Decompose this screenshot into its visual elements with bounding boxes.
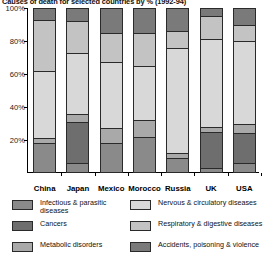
bar-segment[interactable] (166, 31, 189, 48)
bar-segment[interactable] (100, 33, 123, 63)
bar-segment[interactable] (233, 41, 256, 124)
x-tick-mark (128, 173, 129, 176)
bar-segment[interactable] (33, 71, 56, 139)
legend-label: Accidents, poisoning & violence (158, 241, 259, 249)
x-tick-label-uk: UK (205, 184, 216, 193)
stacked-bars (27, 8, 260, 173)
bar-segment[interactable] (200, 8, 223, 16)
bar-segment[interactable] (133, 33, 156, 66)
x-tick-label-japan: Japan (67, 184, 90, 193)
bar-segment[interactable] (133, 8, 156, 33)
x-tick-label-russia: Russia (165, 184, 191, 193)
bar-segment[interactable] (166, 48, 189, 154)
legend-swatch-icon (130, 242, 151, 252)
bar-stack[interactable] (133, 8, 156, 173)
y-tick-label: 60% (10, 70, 25, 79)
bar-segment[interactable] (100, 128, 123, 143)
x-axis-labels: ChinaJapanMexicoMoroccoRussiaUKUSA (27, 184, 260, 198)
bar-stack[interactable] (233, 8, 256, 173)
bar-segment[interactable] (233, 25, 256, 42)
legend-label: Respiratory & digestive diseases (158, 220, 262, 228)
chart-title: Causes of death for selected countries b… (2, 0, 261, 6)
bar-segment[interactable] (133, 66, 156, 120)
bar-stack[interactable] (33, 8, 56, 173)
bar-segment[interactable] (33, 20, 56, 71)
x-tick-mark (161, 173, 162, 176)
bar-segment[interactable] (200, 39, 223, 126)
y-tick-label: 20% (10, 136, 25, 145)
bar-segment[interactable] (233, 124, 256, 134)
bar-stack[interactable] (200, 8, 223, 173)
bar-segment[interactable] (200, 168, 223, 173)
legend-label: Metabolic disorders (40, 241, 102, 249)
bar-segment[interactable] (100, 8, 123, 33)
bar-segment[interactable] (33, 143, 56, 173)
bar-segment[interactable] (66, 163, 89, 173)
bar-segment[interactable] (66, 122, 89, 163)
y-axis-labels: 20%40%60%80%100% (0, 8, 26, 173)
bar-segment[interactable] (233, 163, 256, 173)
chart-root: Causes of death for selected countries b… (0, 0, 263, 256)
plot-area: 20%40%60%80%100% ChinaJapanMexicoMorocco… (0, 8, 263, 183)
bar-segment[interactable] (233, 8, 256, 25)
bar-segment[interactable] (200, 132, 223, 168)
bar-stack[interactable] (100, 8, 123, 173)
bar-stack[interactable] (66, 8, 89, 173)
legend-column-left: Infectious & parasitic diseasesCancersMe… (12, 199, 130, 256)
x-tick-label-morocco: Morocco (128, 184, 161, 193)
bar-segment[interactable] (133, 137, 156, 173)
bar-segment[interactable] (166, 8, 189, 31)
x-tick-mark (228, 173, 229, 176)
legend-item[interactable]: Cancers (12, 220, 130, 237)
legend-label: Infectious & parasitic diseases (40, 199, 106, 216)
legend-item[interactable]: Infectious & parasitic diseases (12, 199, 130, 216)
x-tick-mark (95, 173, 96, 176)
legend-label: Cancers (40, 220, 67, 228)
bar-segment[interactable] (100, 62, 123, 128)
legend-label: Nervous & circulatory diseases (158, 199, 257, 207)
bar-segment[interactable] (233, 133, 256, 163)
bar-segment[interactable] (66, 53, 89, 114)
y-tick-label: 40% (10, 103, 25, 112)
x-tick-mark (261, 173, 262, 176)
y-tick-label: 80% (10, 37, 25, 46)
legend-item[interactable]: Nervous & circulatory diseases (130, 199, 263, 216)
bar-segment[interactable] (66, 21, 89, 52)
legend-column-right: Nervous & circulatory diseasesRespirator… (130, 199, 263, 256)
x-tick-mark (61, 173, 62, 176)
bar-segment[interactable] (200, 16, 223, 39)
bar-segment[interactable] (33, 8, 56, 20)
y-tick-label: 100% (6, 4, 25, 13)
legend-item[interactable]: Accidents, poisoning & violence (130, 241, 263, 256)
legend-item[interactable]: Metabolic disorders (12, 241, 130, 256)
x-tick-label-china: China (34, 184, 56, 193)
x-tick-label-mexico: Mexico (98, 184, 124, 193)
bar-segment[interactable] (66, 114, 89, 122)
bar-stack[interactable] (166, 8, 189, 173)
legend-swatch-icon (12, 242, 33, 252)
x-tick-label-usa: USA (236, 184, 252, 193)
chart-legend: Infectious & parasitic diseasesCancersMe… (0, 199, 263, 256)
bar-segment[interactable] (100, 143, 123, 173)
legend-item[interactable]: Respiratory & digestive diseases (130, 220, 263, 237)
legend-swatch-icon (12, 221, 33, 231)
bar-segment[interactable] (166, 158, 189, 173)
x-tick-mark (194, 173, 195, 176)
bar-segment[interactable] (66, 8, 89, 21)
legend-swatch-icon (12, 200, 33, 210)
legend-swatch-icon (130, 221, 151, 231)
legend-swatch-icon (130, 200, 151, 210)
bar-segment[interactable] (133, 120, 156, 137)
